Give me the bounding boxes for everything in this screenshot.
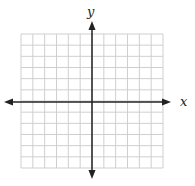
x-axis	[4, 99, 171, 106]
x-axis-right-arrow-icon	[162, 99, 171, 106]
x-axis-left-arrow-icon	[4, 99, 13, 106]
x-axis-label: x	[180, 94, 188, 109]
y-axis-label: y	[86, 4, 95, 19]
y-axis-down-arrow-icon	[89, 170, 96, 179]
y-axis-up-arrow-icon	[89, 21, 96, 30]
coordinate-plane: y x	[0, 0, 195, 186]
